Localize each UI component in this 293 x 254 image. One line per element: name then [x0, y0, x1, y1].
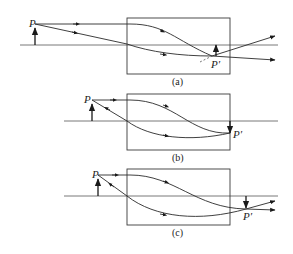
ray-a-2 — [35, 24, 275, 60]
object-label-c: P — [91, 168, 99, 180]
image-label-c: P′ — [242, 210, 253, 222]
ray-a-1 — [35, 24, 212, 56]
caption-c: (c) — [172, 227, 183, 239]
lens-system-box-b — [127, 94, 230, 150]
ray-a-1-out — [212, 36, 275, 56]
lens-ray-diagram: P P′ (a) P P′ (b) P — [0, 0, 293, 254]
ray-b-2 — [92, 100, 230, 138]
image-label-a: P′ — [210, 58, 221, 70]
object-label-a: P — [28, 17, 36, 29]
panel-b: P P′ (b) — [64, 93, 278, 164]
ray-c-1 — [98, 175, 275, 210]
panel-c: P P′ (c) — [64, 168, 278, 239]
panel-a: P P′ (a) — [20, 17, 278, 88]
image-label-b: P′ — [232, 128, 243, 140]
caption-a: (a) — [172, 76, 183, 88]
caption-b: (b) — [172, 152, 184, 164]
object-label-b: P — [83, 93, 91, 105]
lens-system-box-c — [127, 169, 230, 225]
ray-b-1 — [92, 100, 230, 133]
